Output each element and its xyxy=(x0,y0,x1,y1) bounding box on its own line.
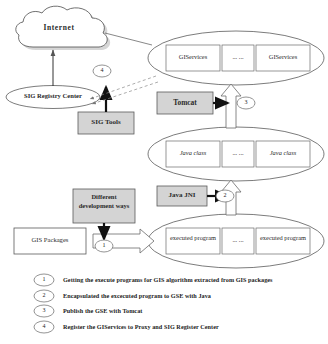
step-marker-3-number: 3 xyxy=(239,99,253,105)
javajni-box-shape xyxy=(157,186,207,206)
internet-cloud-shape xyxy=(16,6,110,50)
giservices-item-box-2 xyxy=(256,45,310,71)
different-development-ways-box-shape xyxy=(73,189,135,223)
executed-program-item-box-1 xyxy=(222,228,254,254)
javaclass-item-box-2 xyxy=(256,141,310,167)
gis-packages-box-shape xyxy=(14,228,86,254)
legend-marker-2-number: 2 xyxy=(37,292,51,298)
legend-marker-4-number: 4 xyxy=(37,323,51,329)
legend-item-text-4: Register the GIServices to Proxy and SIG… xyxy=(63,323,219,330)
legend-marker-1-number: 1 xyxy=(37,276,51,282)
sig-registry-center-shape xyxy=(6,86,100,109)
tomcat-box-shape xyxy=(157,92,213,114)
figure-canvas: Internet SIG Registry Center SIG Tools T… xyxy=(0,0,328,344)
step-marker-2-number: 2 xyxy=(218,192,232,198)
sig-tools-box-shape xyxy=(78,112,134,134)
edge-internet-to-giservices xyxy=(105,33,152,45)
giservices-item-box-0 xyxy=(166,45,220,71)
javaclass-item-box-0 xyxy=(166,141,220,167)
giservices-item-box-1 xyxy=(222,45,254,71)
legend-item-text-3: Publish the GSE with Tomcat xyxy=(63,307,142,314)
legend-marker-3-number: 3 xyxy=(37,307,51,313)
legend-item-text-2: Encapsulated the excecuted program to GS… xyxy=(63,292,211,299)
executed-program-item-box-2 xyxy=(256,228,310,254)
javaclass-item-box-1 xyxy=(222,141,254,167)
executed-program-item-box-0 xyxy=(166,228,220,254)
legend-item-text-1: Getting the execute programs for GIS alg… xyxy=(63,276,273,283)
step-marker-4-number: 4 xyxy=(95,67,109,73)
step-marker-1-number: 1 xyxy=(97,242,111,248)
edge-giservices-to-registry-dashed-b xyxy=(92,82,158,104)
